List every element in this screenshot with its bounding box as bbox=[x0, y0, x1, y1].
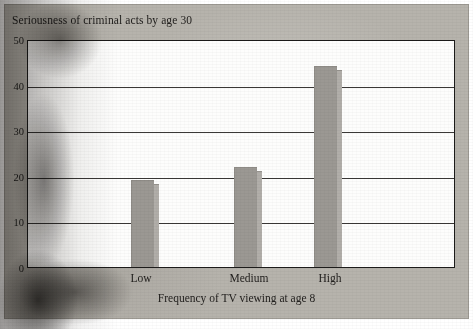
y-tick-label-50: 50 bbox=[2, 35, 24, 46]
x-tick-label-medium: Medium bbox=[230, 272, 269, 284]
bar-medium[interactable] bbox=[234, 167, 257, 267]
x-tick-label-low: Low bbox=[130, 272, 151, 284]
y-tick-label-20: 20 bbox=[2, 171, 24, 182]
y-tick-label-40: 40 bbox=[2, 80, 24, 91]
bar-high[interactable] bbox=[314, 66, 337, 267]
y-axis-tick-labels: 50 40 30 20 10 0 bbox=[0, 40, 24, 268]
chart-screenshot: Seriousness of criminal acts by age 30 5… bbox=[0, 0, 473, 329]
bar-series bbox=[28, 41, 454, 267]
y-tick-label-30: 30 bbox=[2, 126, 24, 137]
y-tick-label-10: 10 bbox=[2, 217, 24, 228]
bar-low[interactable] bbox=[131, 180, 154, 267]
x-axis-title: Frequency of TV viewing at age 8 bbox=[0, 292, 473, 304]
y-tick-label-0: 0 bbox=[2, 263, 24, 274]
chart-title: Seriousness of criminal acts by age 30 bbox=[12, 14, 192, 26]
plot-area bbox=[27, 40, 455, 268]
x-tick-label-high: High bbox=[319, 272, 342, 284]
